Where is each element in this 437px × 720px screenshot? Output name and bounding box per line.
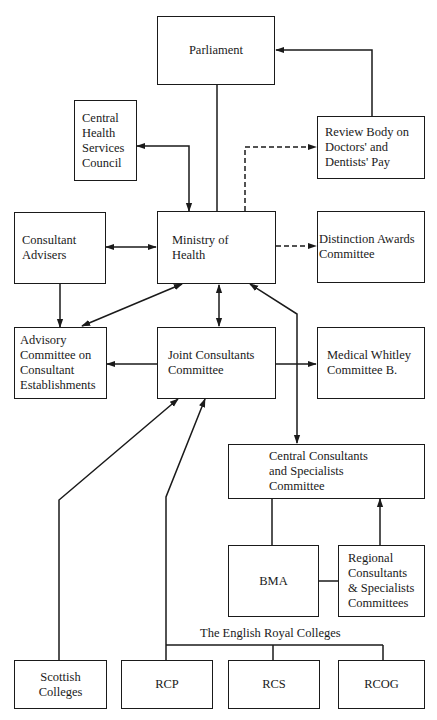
node-label: Medical Whitley Committee B. (327, 348, 411, 378)
node-label: Joint Consultants Committee (168, 348, 254, 378)
english-royal-colleges-label: The English Royal Colleges (200, 626, 341, 641)
edge-scottish-joint (59, 399, 178, 660)
edge-ministry-review (245, 147, 316, 211)
node-ministry-of-health: Ministry of Health (157, 211, 276, 284)
node-joint-consultants-committee: Joint Consultants Committee (157, 327, 276, 399)
node-label: Parliament (189, 43, 243, 58)
edge-rcp-joint (166, 399, 205, 660)
node-label: RCP (155, 677, 179, 692)
node-bma: BMA (228, 545, 319, 617)
edge-ministry-advisory (82, 284, 182, 326)
node-label: RCOG (364, 677, 399, 692)
edge-chsc-ministry (137, 146, 189, 211)
node-label: RCS (262, 677, 286, 692)
node-label: Review Body on Doctors' and Dentists' Pa… (325, 125, 409, 170)
node-label: BMA (259, 574, 287, 589)
node-label: Central Health Services Council (82, 111, 124, 171)
node-consultant-advisers: Consultant Advisers (14, 212, 106, 284)
node-central-health-services-council: Central Health Services Council (74, 100, 137, 181)
node-label: Distinction Awards Committee (319, 232, 415, 262)
node-review-body: Review Body on Doctors' and Dentists' Pa… (317, 116, 425, 179)
node-medical-whitley-committee: Medical Whitley Committee B. (317, 327, 425, 399)
node-label: Central Consultants and Specialists Comm… (269, 449, 368, 494)
node-scottish-colleges: Scottish Colleges (14, 660, 107, 709)
edge-review-parliament (276, 50, 372, 116)
node-rcog: RCOG (338, 660, 425, 709)
node-label: Regional Consultants & Specialists Commi… (348, 551, 414, 611)
node-label: Scottish Colleges (39, 670, 83, 700)
node-label: Advisory Committee on Consultant Establi… (20, 333, 96, 393)
node-rcp: RCP (121, 660, 213, 709)
node-distinction-awards-committee: Distinction Awards Committee (317, 211, 425, 283)
node-parliament: Parliament (157, 16, 275, 85)
node-label: Ministry of Health (172, 233, 229, 263)
node-central-consultants-committee: Central Consultants and Specialists Comm… (228, 444, 425, 499)
node-advisory-committee: Advisory Committee on Consultant Establi… (14, 327, 107, 399)
node-regional-committees: Regional Consultants & Specialists Commi… (338, 545, 425, 617)
node-rcs: RCS (228, 660, 320, 709)
node-label: Consultant Advisers (22, 233, 76, 263)
